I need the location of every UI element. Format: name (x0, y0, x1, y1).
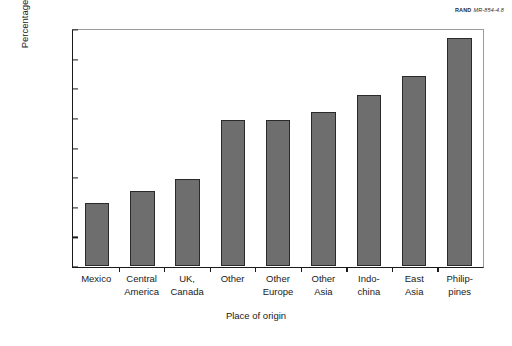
bar (130, 191, 154, 265)
x-axis-tick-mark (392, 267, 393, 272)
x-axis-category-label-line: America (119, 286, 164, 299)
x-axis-category-labels: MexicoCentralAmericaUK,CanadaOtherOtherE… (74, 273, 483, 298)
x-axis-category-label: Indo-china (346, 273, 391, 298)
bar (402, 76, 426, 265)
x-axis-title: Place of origin (0, 310, 512, 321)
bar-slot (301, 31, 346, 266)
x-axis-category-label: OtherAsia (301, 273, 346, 298)
source-organization: RAND (455, 7, 472, 13)
y-axis-tick-mark (73, 266, 78, 267)
bar (357, 95, 381, 265)
bar (221, 120, 245, 265)
bar (85, 203, 109, 265)
x-axis-category-label-line: Mexico (74, 273, 119, 286)
bar-slot (165, 31, 210, 266)
x-axis-category-label: Mexico (74, 273, 119, 298)
x-axis-category-label-line: East (392, 273, 437, 286)
x-axis-category-label: OtherEurope (255, 273, 300, 298)
x-axis-category-label-line: Asia (392, 286, 437, 299)
x-axis-tick-mark (301, 267, 302, 272)
x-axis-tick-mark (164, 267, 165, 272)
bar (266, 120, 290, 265)
x-axis-tick-mark (210, 267, 211, 272)
bar-slot (256, 31, 301, 266)
x-axis-tick-mark (119, 267, 120, 272)
bar-series (75, 31, 483, 266)
x-axis-tick-mark (437, 267, 438, 272)
bar (447, 38, 471, 265)
bar-slot (120, 31, 165, 266)
x-axis-category-label-line: Europe (255, 286, 300, 299)
x-axis-category-label-line: Asia (301, 286, 346, 299)
x-axis-category-label: Philip-pines (437, 273, 482, 298)
x-axis-tick-mark (346, 267, 347, 272)
bar-slot (437, 31, 482, 266)
bar (311, 112, 335, 266)
bar (175, 179, 199, 265)
x-axis-category-label: UK,Canada (164, 273, 209, 298)
bar-slot (346, 31, 391, 266)
x-axis-category-label-line: Indo- (346, 273, 391, 286)
x-axis-category-label-line: Central (119, 273, 164, 286)
y-axis-title-line-1: Percentage arriving in 1970s who had nat… (19, 0, 32, 48)
plot-area: 01020304050607080 (72, 29, 484, 268)
y-axis-title: Percentage arriving in 1970s who had nat… (14, 0, 48, 64)
source-document-id: MR-854-4.8 (473, 7, 504, 13)
x-axis-category-label-line: UK, (164, 273, 209, 286)
x-axis-category-label: Other (210, 273, 255, 298)
x-axis-category-label-line: Other (255, 273, 300, 286)
source-credit: RANDMR-854-4.8 (455, 7, 504, 13)
x-axis-category-label-line: Other (301, 273, 346, 286)
bar-chart-figure: RANDMR-854-4.8 Percentage arriving in 19… (0, 0, 512, 346)
bar-slot (75, 31, 120, 266)
x-axis-category-label-line: Canada (164, 286, 209, 299)
x-axis-category-label-line: china (346, 286, 391, 299)
bar-slot (391, 31, 436, 266)
bar-slot (210, 31, 255, 266)
x-axis-category-label-line: Other (210, 273, 255, 286)
x-axis-category-label: CentralAmerica (119, 273, 164, 298)
x-axis-category-label-line: pines (437, 286, 482, 299)
x-axis-category-label-line: Philip- (437, 273, 482, 286)
x-axis-tick-mark (255, 267, 256, 272)
x-axis-category-label: EastAsia (392, 273, 437, 298)
